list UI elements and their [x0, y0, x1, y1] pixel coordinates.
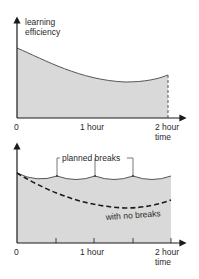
top-chart: learning efficiency 0 1 hour 2 hour time	[14, 17, 183, 142]
top-y-label-line2: efficiency	[25, 27, 61, 37]
break-dot-3	[132, 175, 134, 177]
learning-efficiency-figure: learning efficiency 0 1 hour 2 hour time…	[0, 0, 199, 279]
bottom-chart: planned breaks with no breaks 0 1 hour 2…	[14, 146, 183, 267]
top-x-tick-2: 2 hour	[155, 122, 179, 132]
planned-breaks-label: planned breaks	[62, 153, 120, 163]
top-y-label-line1: learning	[25, 17, 56, 27]
break-dot-2	[94, 175, 96, 177]
top-x-tick-1: 1 hour	[80, 122, 104, 132]
top-x-tick-0: 0	[14, 122, 19, 132]
bottom-x-tick-1: 1 hour	[80, 247, 104, 257]
bottom-x-label: time	[155, 257, 171, 267]
break-dot-1	[56, 175, 58, 177]
bottom-x-tick-2: 2 hour	[155, 247, 179, 257]
top-x-label: time	[155, 132, 171, 142]
bottom-x-tick-0: 0	[14, 247, 19, 257]
bottom-area-fill	[17, 173, 171, 243]
